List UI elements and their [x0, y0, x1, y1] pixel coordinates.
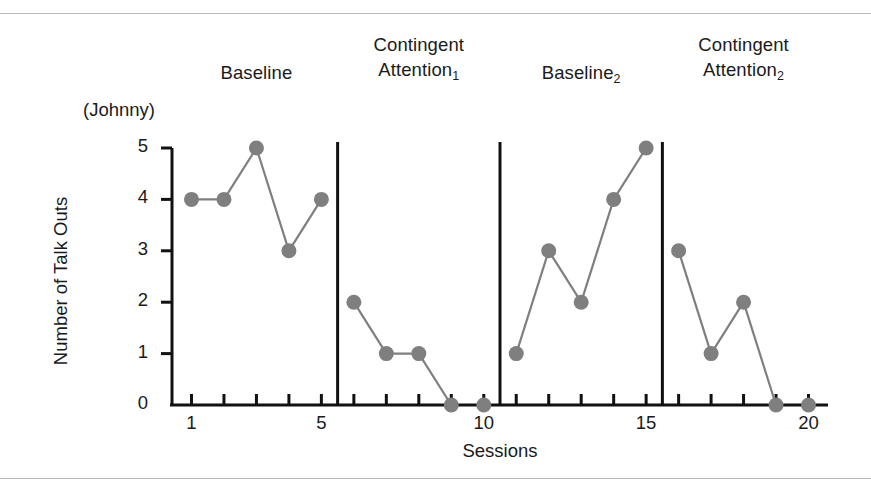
figure-container: Baseline ContingentAttention1 Baseline2 …: [0, 0, 871, 492]
data-point: [509, 346, 524, 361]
x-tick-label: 15: [631, 412, 661, 434]
data-point: [314, 192, 329, 207]
series-line-0: [191, 148, 321, 251]
y-tick-label: 5: [122, 135, 148, 157]
x-tick-label: 1: [176, 412, 206, 434]
data-point: [184, 192, 199, 207]
x-tick-label: 10: [469, 412, 499, 434]
data-point: [639, 141, 654, 156]
data-point: [769, 398, 784, 413]
x-tick-label: 20: [794, 412, 824, 434]
data-point: [281, 243, 296, 258]
data-point: [216, 192, 231, 207]
data-point: [606, 192, 621, 207]
data-point: [801, 398, 816, 413]
y-tick-label: 0: [122, 392, 148, 414]
y-tick-label: 1: [122, 341, 148, 363]
data-point: [736, 295, 751, 310]
data-point: [574, 295, 589, 310]
data-point: [704, 346, 719, 361]
data-point: [346, 295, 361, 310]
data-point: [379, 346, 394, 361]
data-point: [411, 346, 426, 361]
series-line-1: [354, 302, 451, 405]
data-point: [671, 243, 686, 258]
y-tick-label: 2: [122, 289, 148, 311]
data-point: [541, 243, 556, 258]
series-line-2: [516, 148, 646, 354]
y-tick-label: 3: [122, 238, 148, 260]
data-point: [249, 141, 264, 156]
x-tick-label: 5: [306, 412, 336, 434]
data-point: [476, 398, 491, 413]
y-tick-label: 4: [122, 186, 148, 208]
series-line-3: [679, 251, 776, 405]
data-point: [444, 398, 459, 413]
